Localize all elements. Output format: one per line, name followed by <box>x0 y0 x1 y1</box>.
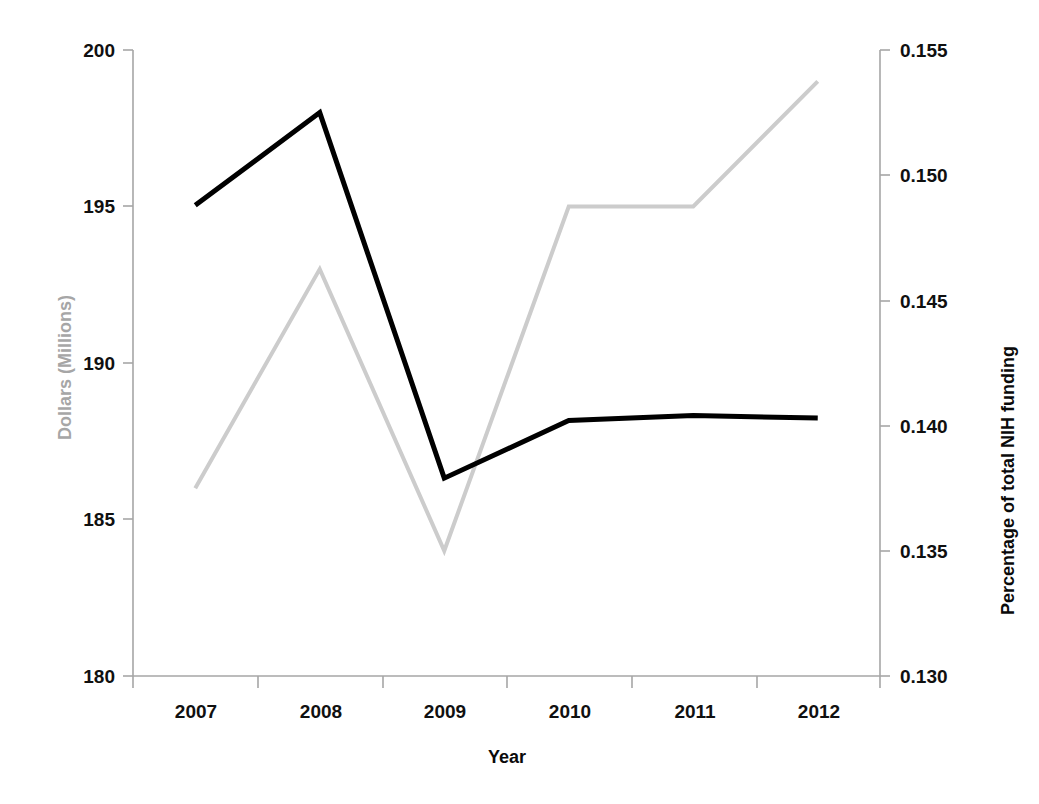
x-axis-title: Year <box>407 748 607 766</box>
y-right-tick-label-0140: 0.140 <box>900 417 990 436</box>
y-left-tick-label-200: 200 <box>55 41 115 60</box>
y-right-tick-label-0155: 0.155 <box>900 41 990 60</box>
y-left-tick-marks <box>123 50 133 676</box>
x-tick-label-2009: 2009 <box>405 702 485 721</box>
series-line-percentage <box>195 113 818 479</box>
y-right-tick-label-0130: 0.130 <box>900 667 990 686</box>
y-left-tick-label-195: 195 <box>55 197 115 216</box>
y-left-axis-title: Dollars (Millions) <box>56 295 74 440</box>
chart-plot-area <box>0 0 1039 804</box>
series-line-dollars <box>195 81 818 551</box>
x-tick-label-2012: 2012 <box>779 702 859 721</box>
x-tick-label-2011: 2011 <box>655 702 735 721</box>
axis-lines <box>133 50 880 676</box>
x-tick-label-2007: 2007 <box>156 702 236 721</box>
y-right-axis-title: Percentage of total NIH funding <box>999 346 1017 615</box>
y-right-tick-label-0145: 0.145 <box>900 292 990 311</box>
y-left-tick-label-185: 185 <box>55 510 115 529</box>
x-tick-label-2008: 2008 <box>281 702 361 721</box>
chart-figure: 200 195 190 185 180 0.155 0.150 0.145 0.… <box>0 0 1039 804</box>
y-right-tick-label-0150: 0.150 <box>900 166 990 185</box>
y-right-tick-marks <box>880 50 890 676</box>
y-left-tick-label-180: 180 <box>55 667 115 686</box>
x-tick-label-2010: 2010 <box>530 702 610 721</box>
x-tick-marks <box>133 676 880 688</box>
y-right-tick-label-0135: 0.135 <box>900 542 990 561</box>
